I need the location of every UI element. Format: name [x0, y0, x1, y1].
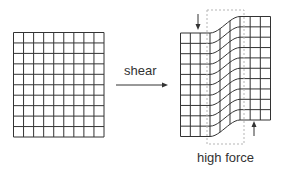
original-grid	[14, 33, 105, 138]
high-force-label: high force	[197, 150, 254, 165]
down-force-arrow-icon	[196, 14, 201, 30]
sheared-grid	[181, 17, 271, 137]
high-force-region-outline	[207, 10, 244, 144]
shear-label: shear	[124, 63, 157, 78]
shear-diagram	[0, 0, 283, 172]
up-force-arrow-icon	[252, 121, 257, 136]
shear-arrow-icon	[116, 83, 168, 88]
